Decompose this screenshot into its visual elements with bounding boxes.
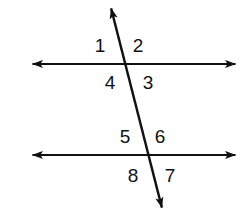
geometry-diagram-canvas: 1 2 3 4 5 6 7 8 [0,0,242,216]
angle-label-6: 6 [150,127,170,146]
angle-label-3: 3 [138,73,158,92]
angle-label-1: 1 [90,36,110,55]
angle-label-7: 7 [160,166,180,185]
angle-label-4: 4 [100,73,120,92]
angle-label-8: 8 [123,166,143,185]
angle-label-5: 5 [115,127,135,146]
angle-label-2: 2 [128,36,148,55]
geometry-figure [0,0,242,216]
